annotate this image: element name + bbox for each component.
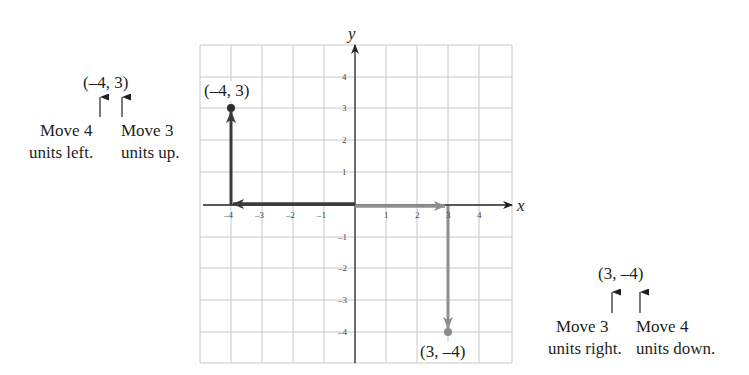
x-tick: 3: [446, 210, 451, 220]
x-tick: 1: [384, 210, 389, 220]
left-move1-line1: Move 4: [40, 121, 92, 141]
x-axis-label: x: [517, 196, 525, 216]
right-annotation-pair: (3, –4): [598, 264, 643, 284]
y-tick: 3: [342, 103, 347, 113]
right-move1-line2: units right.: [548, 339, 622, 359]
y-tick: 4: [342, 72, 347, 82]
x-tick: 4: [477, 210, 482, 220]
y-axis-label: y: [348, 24, 356, 44]
point-label-neg4-3: (–4, 3): [204, 81, 249, 101]
point-neg4-3: [227, 104, 235, 112]
left-move2-line2: units up.: [121, 143, 180, 163]
left-annotation-pair: (–4, 3): [83, 73, 128, 93]
point-label-3-neg4: (3, –4): [420, 342, 465, 362]
y-tick: –2: [338, 263, 347, 273]
left-move2-line1: Move 3: [121, 121, 173, 141]
x-tick: –4: [224, 210, 233, 220]
x-tick: 2: [415, 210, 420, 220]
right-move2-line2: units down.: [636, 339, 715, 359]
y-tick: –4: [338, 327, 347, 337]
point-3-neg4: [444, 328, 452, 336]
x-tick: –1: [317, 210, 326, 220]
x-tick: –2: [286, 210, 295, 220]
y-tick: 1: [342, 167, 347, 177]
y-tick: –1: [338, 232, 347, 242]
y-tick: 2: [342, 135, 347, 145]
y-tick: –3: [338, 295, 347, 305]
right-move2-line1: Move 4: [636, 317, 688, 337]
left-move1-line2: units left.: [29, 143, 93, 163]
right-move1-line1: Move 3: [556, 317, 608, 337]
x-tick: –3: [255, 210, 264, 220]
